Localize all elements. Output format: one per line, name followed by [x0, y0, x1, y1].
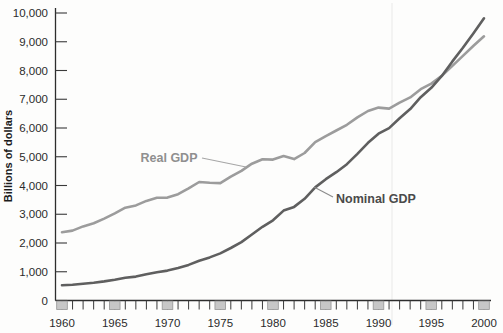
y-tick-label: 0: [42, 295, 48, 307]
x-tick-box: [479, 301, 490, 309]
x-tick-label: 1960: [49, 317, 75, 329]
y-axis-title: Billions of dollars: [2, 110, 14, 202]
real-gdp-label: Real GDP: [141, 151, 198, 165]
x-tick-label: 1970: [155, 317, 181, 329]
x-tick-label: 1980: [260, 317, 286, 329]
y-tick-label: 8,000: [19, 65, 48, 77]
y-tick-label: 4,000: [19, 180, 48, 192]
figure-background: [0, 0, 503, 333]
x-tick-box: [373, 301, 384, 309]
x-tick-label: 1975: [207, 317, 233, 329]
y-tick-label: 1,000: [19, 266, 48, 278]
x-tick-box: [57, 301, 68, 309]
chart-canvas: 01,0002,0003,0004,0005,0006,0007,0008,00…: [0, 0, 503, 333]
y-tick-label: 7,000: [19, 93, 48, 105]
y-tick-label: 5,000: [19, 151, 48, 163]
y-tick-label: 3,000: [19, 208, 48, 220]
nominal-gdp-label: Nominal GDP: [336, 192, 416, 206]
y-tick-label: 6,000: [19, 122, 48, 134]
x-tick-box: [162, 301, 173, 309]
x-tick-box: [426, 301, 437, 309]
x-tick-label: 2000: [471, 317, 497, 329]
y-tick-label: 2,000: [19, 237, 48, 249]
x-tick-label: 1985: [313, 317, 339, 329]
x-tick-box: [320, 301, 331, 309]
x-tick-label: 1995: [418, 317, 444, 329]
y-tick-label: 9,000: [19, 36, 48, 48]
y-tick-label: 10,000: [13, 7, 48, 19]
x-tick-label: 1965: [102, 317, 128, 329]
x-tick-box: [109, 301, 120, 309]
x-tick-box: [268, 301, 279, 309]
x-tick-box: [215, 301, 226, 309]
x-tick-label: 1990: [366, 317, 392, 329]
gdp-line-chart-figure: 01,0002,0003,0004,0005,0006,0007,0008,00…: [0, 0, 503, 333]
